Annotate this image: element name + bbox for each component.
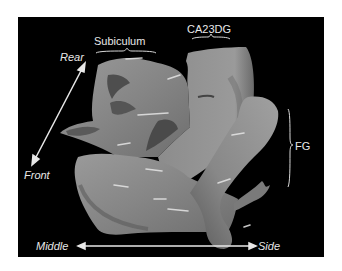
ca23dg-label: CA23DG xyxy=(187,23,231,35)
front-label: Front xyxy=(24,169,50,181)
fg-bracket xyxy=(288,109,293,187)
rear-front-arrow xyxy=(32,63,85,165)
middle-label: Middle xyxy=(36,240,68,252)
fg-label: FG xyxy=(295,140,310,152)
side-label: Side xyxy=(258,240,280,252)
figure-panel: Subiculum CA23DG FG Rear Front Middle Si… xyxy=(18,17,324,257)
subiculum-bracket xyxy=(96,48,156,53)
rear-label: Rear xyxy=(60,51,84,63)
subiculum-label: Subiculum xyxy=(94,35,145,47)
